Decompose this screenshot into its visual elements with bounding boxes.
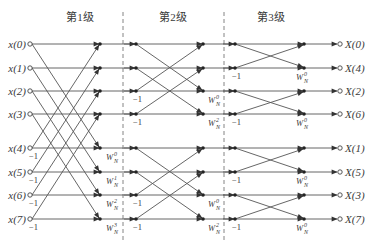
twiddle-subscript: N	[303, 182, 309, 188]
node	[98, 146, 102, 150]
node	[302, 217, 306, 221]
output-label-1: X(4)	[344, 62, 365, 75]
minus-one-label: −1	[29, 151, 38, 161]
stage-label-1: 第1级	[66, 10, 94, 23]
twiddle-subscript: N	[215, 124, 221, 130]
node	[98, 170, 102, 174]
stage-labels: 第1级第2级第3级	[66, 10, 285, 23]
minus-one-label: −1	[232, 71, 241, 81]
twiddle-exponent: 0	[304, 117, 307, 123]
twiddle-subscript: N	[215, 101, 221, 107]
fft-butterfly-diagram: 第1级第2级第3级 x(0)x(1)x(2)x(3)x(4)x(5)x(6)x(…	[0, 0, 368, 252]
node	[201, 170, 205, 174]
twiddle-exponent: 0	[114, 151, 117, 157]
edge	[32, 115, 99, 219]
edge	[235, 195, 303, 218]
twiddle-factor: W	[208, 199, 216, 209]
twiddle-exponent: 0	[304, 71, 307, 77]
minus-one-label: −1	[232, 222, 241, 232]
node	[98, 112, 102, 116]
node	[134, 42, 138, 46]
edge	[32, 91, 99, 194]
node	[201, 112, 205, 116]
node	[134, 170, 138, 174]
output-label-5: X(5)	[344, 166, 365, 179]
twiddle-exponent: 0	[216, 198, 219, 204]
node	[134, 193, 138, 197]
input-label-1: x(1)	[7, 62, 26, 75]
node	[233, 146, 237, 150]
twiddle-factor: W	[106, 152, 114, 162]
io-node	[338, 89, 342, 93]
node	[201, 146, 205, 150]
twiddle-factor: W	[106, 199, 114, 209]
node	[233, 112, 237, 116]
node	[98, 217, 102, 221]
twiddle-factor: W	[296, 223, 304, 233]
node	[201, 89, 205, 93]
node	[233, 217, 237, 221]
twiddle-subscript: N	[215, 229, 221, 235]
output-label-7: X(7)	[344, 213, 365, 226]
twiddle-subscript: N	[303, 124, 309, 130]
edge	[32, 114, 99, 218]
minus-one-label: −1	[29, 175, 38, 185]
edge	[136, 69, 202, 114]
edge	[136, 68, 202, 113]
edge	[235, 44, 303, 67]
io-node	[338, 112, 342, 116]
edge	[136, 44, 202, 90]
minus-one-label: −1	[29, 222, 38, 232]
io-node	[28, 42, 32, 46]
butterfly-flow-graph: 第1级第2级第3级 x(0)x(1)x(2)x(3)x(4)x(5)x(6)x(…	[0, 0, 368, 252]
edge	[32, 68, 99, 171]
node	[302, 193, 306, 197]
twiddle-exponent: 2	[216, 222, 219, 228]
twiddle-subscript: N	[113, 182, 119, 188]
io-node	[28, 193, 32, 197]
minus-one-label: −1	[133, 222, 142, 232]
node	[302, 112, 306, 116]
edge	[32, 44, 99, 147]
input-label-2: x(2)	[7, 85, 26, 98]
input-label-3: x(3)	[7, 108, 26, 121]
node	[302, 42, 306, 46]
stage-label-3: 第3级	[257, 10, 285, 23]
edge	[32, 92, 99, 195]
twiddle-factor: W	[296, 118, 304, 128]
io-node	[28, 89, 32, 93]
twiddle-factor: W	[208, 95, 216, 105]
io-node	[28, 66, 32, 70]
twiddle-factor: W	[106, 176, 114, 186]
node	[98, 193, 102, 197]
twiddle-subscript: N	[215, 205, 221, 211]
twiddle-factor: W	[296, 72, 304, 82]
twiddle-subscript: N	[113, 158, 119, 164]
minus-one-label: −1	[133, 198, 142, 208]
node	[134, 89, 138, 93]
edges	[32, 44, 337, 219]
edge	[235, 148, 303, 171]
output-label-2: X(2)	[344, 85, 365, 98]
input-label-0: x(0)	[7, 38, 26, 51]
node	[98, 89, 102, 93]
minus-one-label: −1	[133, 117, 142, 127]
io-node	[338, 66, 342, 70]
minus-one-label: −1	[29, 198, 38, 208]
node	[233, 89, 237, 93]
edge	[235, 196, 303, 219]
twiddle-subscript: N	[303, 229, 309, 235]
node	[134, 112, 138, 116]
io-node	[28, 170, 32, 174]
twiddle-factor: W	[296, 176, 304, 186]
io-node	[338, 146, 342, 150]
io-node	[338, 217, 342, 221]
output-label-6: X(3)	[344, 189, 365, 202]
node	[302, 170, 306, 174]
twiddle-exponent: 1	[114, 175, 117, 181]
twiddle-exponent: 0	[216, 94, 219, 100]
io-node	[338, 170, 342, 174]
twiddle-exponent: 3	[113, 222, 117, 228]
twiddle-factor: W	[208, 223, 216, 233]
node	[134, 146, 138, 150]
